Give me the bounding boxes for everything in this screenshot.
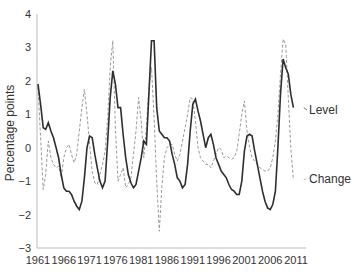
x-tick-label: 1966	[52, 254, 76, 266]
y-tick-label: −1	[18, 175, 31, 187]
y-tick-label: 1	[25, 108, 31, 120]
y-axis-label: Percentage points	[3, 85, 17, 182]
y-tick-label: 0	[25, 142, 31, 154]
x-tick-label: 1986	[155, 254, 179, 266]
x-tick-label: 1996	[206, 254, 230, 266]
x-tick-label: 1971	[77, 254, 101, 266]
x-tick-label: 1961	[26, 254, 50, 266]
x-axis-ticks: 1961196619711976198119861991199620012006…	[26, 254, 308, 266]
line-chart: −3−2−101234 1961196619711976198119861991…	[0, 0, 354, 275]
x-tick-label: 2001	[232, 254, 256, 266]
y-axis-ticks: −3−2−101234	[18, 8, 31, 254]
x-tick-label: 1976	[103, 254, 127, 266]
y-tick-label: 3	[25, 41, 31, 53]
legend-level: Level	[309, 103, 338, 117]
legend-change: Change	[309, 172, 351, 186]
y-tick-label: 2	[25, 75, 31, 87]
x-tick-label: 1991	[181, 254, 205, 266]
y-tick-label: −2	[18, 209, 31, 221]
x-tick-label: 1981	[129, 254, 153, 266]
x-tick-label: 2006	[258, 254, 282, 266]
x-tick-label: 2011	[284, 254, 308, 266]
level-series-line	[38, 41, 293, 210]
level-leader-line	[304, 108, 307, 110]
y-tick-label: −3	[18, 242, 31, 254]
change-series-line	[38, 39, 293, 231]
y-tick-label: 4	[25, 8, 31, 20]
